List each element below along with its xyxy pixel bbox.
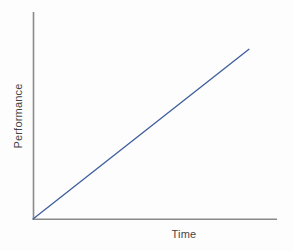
line-chart-plot [0,0,293,251]
chart-figure: Performance Time [0,0,293,251]
x-axis-label: Time [0,228,293,240]
data-line-performance [33,49,249,219]
y-axis-label: Performance [12,36,24,196]
